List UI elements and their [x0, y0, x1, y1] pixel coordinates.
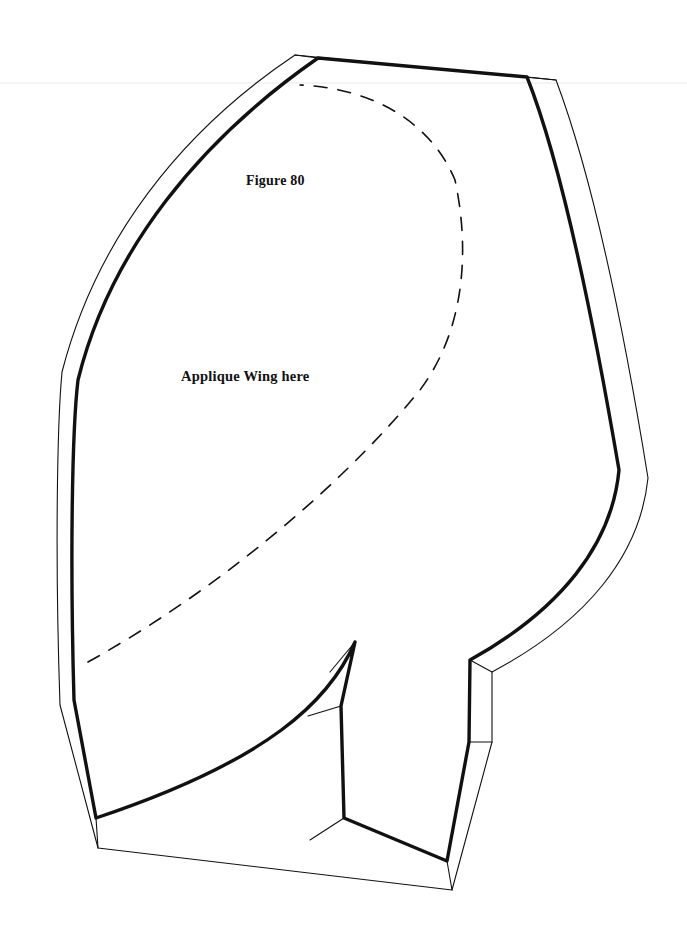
applique-instruction-label: Applique Wing here: [181, 368, 310, 385]
figure-number-label: Figure 80: [246, 173, 305, 189]
pattern-drawing: [0, 0, 687, 941]
pattern-sheet: Figure 80 Applique Wing here: [0, 0, 687, 941]
